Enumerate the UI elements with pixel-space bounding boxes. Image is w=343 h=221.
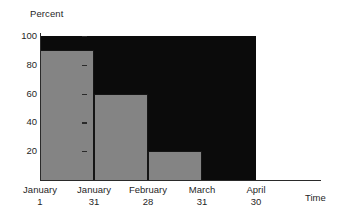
y-tick-label-20: 20 [26, 145, 37, 156]
y-tick-label-80: 80 [26, 59, 37, 70]
x-tick-month-3: March [189, 184, 215, 195]
x-tick-month-1: January [77, 184, 111, 195]
y-tick-label-100: 100 [21, 30, 37, 41]
bar-january-31 [94, 94, 148, 180]
x-tick-label-april-30: April 30 [218, 184, 294, 207]
y-tick-label-60: 60 [26, 88, 37, 99]
y-axis-title: Percent [30, 8, 63, 19]
x-tick-day-4: 30 [218, 196, 294, 208]
y-tick-40: 40 [41, 122, 46, 123]
x-tick-month-4: April [246, 184, 265, 195]
x-tick-month-2: February [129, 184, 167, 195]
y-tick-20: 20 [41, 151, 46, 152]
y-axis-line [40, 33, 41, 181]
y-tick-80: 80 [41, 65, 46, 66]
y-tick-60: 60 [41, 94, 46, 95]
bar-january-1 [40, 50, 94, 180]
y-tick-100: 100 [41, 36, 46, 37]
percent-vs-time-bar-chart: Percent 100 80 60 40 20 January 1 Januar… [0, 0, 343, 221]
x-axis-line [40, 180, 321, 181]
x-axis-title: Time [305, 192, 326, 203]
plot-area [40, 36, 256, 180]
bar-february-28 [148, 151, 202, 180]
x-tick-month-0: January [23, 184, 57, 195]
y-tick-label-40: 40 [26, 116, 37, 127]
